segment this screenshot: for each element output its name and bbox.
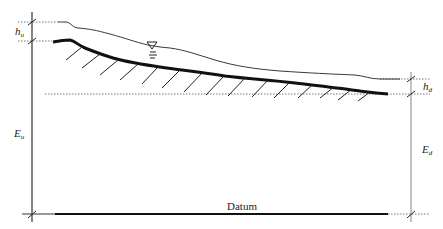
energy-diagram: hu hd Eu Ed Datum bbox=[0, 0, 443, 229]
label-datum: Datum bbox=[227, 200, 257, 212]
water-surface-profile bbox=[58, 22, 400, 79]
label-h-d: hd bbox=[423, 80, 433, 94]
label-E-d: Ed bbox=[421, 143, 433, 157]
water-surface-symbol-icon bbox=[147, 42, 157, 58]
label-E-u: Eu bbox=[13, 127, 25, 141]
channel-bed-profile bbox=[53, 40, 388, 94]
label-h-u: hu bbox=[15, 25, 25, 39]
